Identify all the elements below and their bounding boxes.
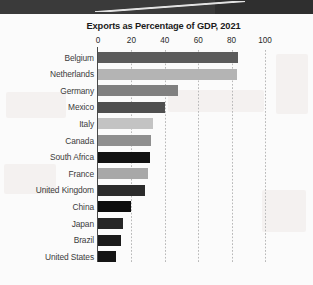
- banner-diagonal-streak: [95, 1, 245, 12]
- bar[interactable]: [98, 251, 116, 262]
- bar-category-label: Japan: [72, 219, 94, 229]
- bar-category-label: Italy: [79, 119, 94, 129]
- x-tick-label-0: 0: [96, 36, 101, 45]
- bar-category-label: Brazil: [74, 235, 94, 245]
- x-tick-label-60: 60: [194, 36, 203, 45]
- bar-row[interactable]: Italy: [98, 118, 265, 129]
- page-surface: Exports as Percentage of GDP, 2021 02040…: [0, 14, 313, 285]
- x-tick-label-100: 100: [258, 36, 272, 45]
- bar-category-label: Mexico: [68, 102, 94, 112]
- bar-row[interactable]: Mexico: [98, 102, 265, 113]
- bar-category-label: Germany: [60, 86, 94, 96]
- bar-category-label: South Africa: [50, 152, 94, 162]
- bar[interactable]: [98, 168, 148, 179]
- bar[interactable]: [98, 102, 165, 113]
- bar[interactable]: [98, 185, 145, 196]
- bar-category-label: United Kingdom: [36, 185, 94, 195]
- bar-category-label: United States: [45, 252, 94, 262]
- gridline-100: [265, 50, 266, 262]
- bar[interactable]: [98, 235, 121, 246]
- bar-row[interactable]: Netherlands: [98, 69, 265, 80]
- bar[interactable]: [98, 118, 153, 129]
- bar-row[interactable]: South Africa: [98, 152, 265, 163]
- x-tick-label-80: 80: [227, 36, 236, 45]
- bar-row[interactable]: Belgium: [98, 52, 265, 63]
- x-tick-label-20: 20: [127, 36, 136, 45]
- top-banner: [0, 0, 313, 14]
- bar-category-label: Netherlands: [50, 69, 94, 79]
- bar[interactable]: [98, 152, 150, 163]
- bar-row[interactable]: France: [98, 168, 265, 179]
- bar[interactable]: [98, 218, 123, 229]
- bar[interactable]: [98, 135, 151, 146]
- plot-area: BelgiumNetherlandsGermanyMexicoItalyCana…: [98, 50, 265, 269]
- bar-category-label: China: [73, 202, 94, 212]
- bar-row[interactable]: Brazil: [98, 235, 265, 246]
- bar[interactable]: [98, 85, 178, 96]
- bar-row[interactable]: United States: [98, 251, 265, 262]
- x-axis-tick-labels: 020406080100: [98, 36, 265, 48]
- bar[interactable]: [98, 201, 131, 212]
- bar-category-label: Canada: [65, 136, 94, 146]
- chart-title: Exports as Percentage of GDP, 2021: [0, 21, 313, 31]
- bar[interactable]: [98, 52, 238, 63]
- x-tick-label-40: 40: [160, 36, 169, 45]
- bar-category-label: France: [69, 169, 94, 179]
- bar-row[interactable]: Canada: [98, 135, 265, 146]
- bar-category-label: Belgium: [64, 53, 94, 63]
- bar-chart: Exports as Percentage of GDP, 2021 02040…: [0, 14, 313, 270]
- bar-row[interactable]: United Kingdom: [98, 185, 265, 196]
- bar-row[interactable]: Germany: [98, 85, 265, 96]
- bar[interactable]: [98, 69, 237, 80]
- bar-row[interactable]: China: [98, 201, 265, 212]
- bar-row[interactable]: Japan: [98, 218, 265, 229]
